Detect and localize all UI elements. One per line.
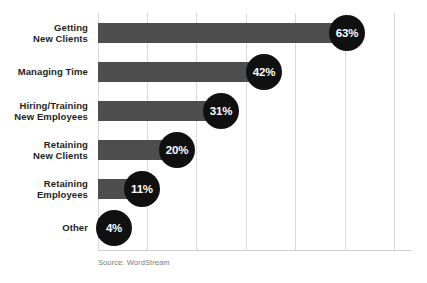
category-label: Other: [0, 222, 88, 234]
category-label: RetainingEmployees: [0, 177, 88, 200]
axis-baseline: [98, 250, 411, 251]
category-label: GettingNew Clients: [0, 21, 88, 44]
chart-row: Managing Time 42%: [0, 52, 427, 91]
chart-row: Other 4%: [0, 208, 427, 247]
category-label: Hiring/TrainingNew Employees: [0, 99, 88, 122]
chart-row: RetainingNew Clients 20%: [0, 130, 427, 169]
value-badge: 63%: [329, 15, 365, 51]
value-badge: 11%: [124, 171, 160, 207]
category-label: RetainingNew Clients: [0, 138, 88, 161]
chart-row: GettingNew Clients 63%: [0, 13, 427, 52]
category-label: Managing Time: [0, 66, 88, 78]
bar: [98, 23, 347, 43]
bar-chart: GettingNew Clients 63% Managing Time 42%…: [0, 0, 427, 283]
chart-title-cropped: [0, 0, 427, 3]
value-badge: 42%: [246, 54, 282, 90]
source-note: Source: WordStream: [98, 258, 170, 267]
value-badge: 4%: [96, 210, 132, 246]
value-badge: 31%: [203, 93, 239, 129]
value-badge: 20%: [159, 132, 195, 168]
chart-row: RetainingEmployees 11%: [0, 169, 427, 208]
bar: [98, 62, 264, 82]
chart-row: Hiring/TrainingNew Employees 31%: [0, 91, 427, 130]
